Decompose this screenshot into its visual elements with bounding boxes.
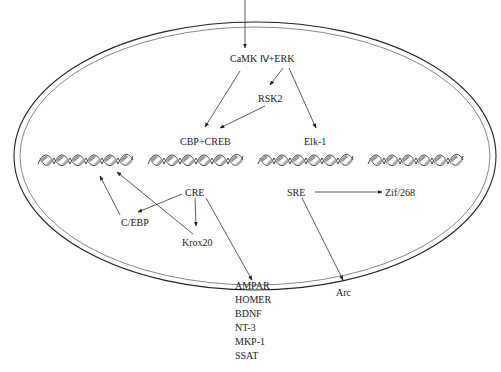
- arrow-cebp-to-dna: [100, 176, 120, 215]
- target-gene: MKP-1: [235, 336, 265, 347]
- arrow-cre-to-krox20: [195, 198, 196, 226]
- label-cre: CRE: [185, 187, 204, 198]
- label-zif268: Zif/268: [385, 187, 415, 198]
- label-krox20: Krox20: [182, 237, 213, 248]
- dna-helix-4: [368, 154, 463, 165]
- arrow-camk-to-cbpcreb: [205, 71, 240, 127]
- arrow-cre-to-cebp: [138, 194, 182, 212]
- target-gene: AMPAR: [235, 280, 270, 291]
- target-gene: SSAT: [235, 350, 258, 361]
- target-gene: HOMER: [235, 294, 271, 305]
- diagram-canvas: CaMK Ⅳ+ERK RSK2 CBP+CREB Elk-1 CRE C/EBP…: [0, 0, 501, 372]
- arrow-rsk2-to-cbpcreb: [220, 106, 265, 128]
- label-rsk2: RSK2: [258, 93, 282, 104]
- label-cebp: C/EBP: [121, 217, 149, 228]
- label-cbp-creb: CBP+CREB: [180, 136, 231, 147]
- arrow-sre-to-arc: [302, 198, 343, 280]
- label-arc: Arc: [336, 287, 352, 298]
- arrow-camk-to-elk1: [289, 68, 316, 128]
- target-gene-list: AMPAR HOMER BDNF NT-3 MKP-1 SSAT: [235, 280, 271, 361]
- label-sre: SRE: [287, 187, 305, 198]
- dna-helix-3: [258, 154, 353, 165]
- target-gene: NT-3: [235, 322, 256, 333]
- target-gene: BDNF: [235, 308, 262, 319]
- dna-helix-2: [148, 154, 243, 165]
- label-elk1: Elk-1: [304, 136, 326, 147]
- arrow-camk-to-rsk2: [270, 68, 283, 85]
- dna-helix-1: [38, 154, 133, 165]
- arrow-cre-to-targets: [206, 198, 252, 280]
- label-camk-erk: CaMK Ⅳ+ERK: [230, 53, 295, 64]
